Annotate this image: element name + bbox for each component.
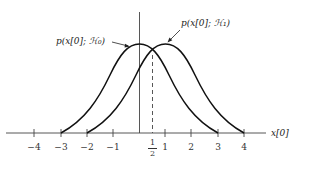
tick-label: −2 — [80, 143, 93, 152]
curve-h1 — [87, 44, 244, 133]
tick-label: −3 — [54, 143, 67, 152]
tick-label: 1 — [162, 143, 168, 152]
tick-label: 3 — [215, 143, 221, 152]
threshold-label: 1 2 — [148, 139, 157, 158]
tick-label: 4 — [241, 143, 247, 152]
x-axis-label: x[0] — [271, 129, 289, 138]
tick-label: −1 — [106, 143, 119, 152]
tick-label: 2 — [188, 143, 194, 152]
curve-label-h1: p(x[0]; ℋ₁) — [181, 19, 230, 28]
threshold-numerator: 1 — [148, 139, 157, 149]
tick-label: −4 — [27, 143, 40, 152]
threshold-denominator: 2 — [148, 149, 157, 158]
curve-label-h0: p(x[0]; ℋ₀) — [56, 37, 105, 46]
